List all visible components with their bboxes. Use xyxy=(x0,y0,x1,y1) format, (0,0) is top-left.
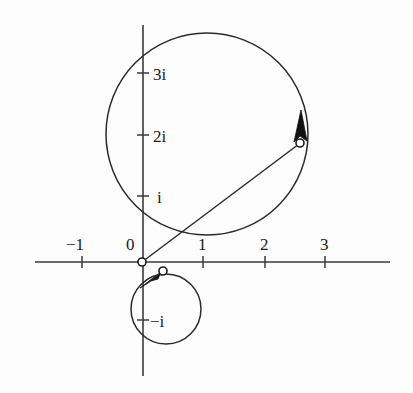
y-label-3i: 3i xyxy=(153,65,167,84)
small-circle xyxy=(131,274,201,344)
upper-arrow-head-icon xyxy=(294,110,307,142)
x-label-3: 3 xyxy=(320,235,329,254)
large-circle xyxy=(106,33,308,235)
x-label-0: 0 xyxy=(126,235,135,254)
y-label-minus-i: −i xyxy=(150,312,165,331)
y-label-i: i xyxy=(157,188,162,207)
x-label-minus1: −1 xyxy=(66,235,84,254)
origin-point-marker xyxy=(138,258,146,266)
figure-root: −1 0 1 2 3 3i 2i i −i xyxy=(0,0,413,393)
upper-point-marker xyxy=(296,139,304,147)
lower-point-marker xyxy=(159,267,167,275)
x-label-1: 1 xyxy=(198,235,207,254)
y-label-2i: 2i xyxy=(153,127,167,146)
x-label-2: 2 xyxy=(260,235,269,254)
complex-plane-diagram: −1 0 1 2 3 3i 2i i −i xyxy=(0,0,413,393)
chord-segment xyxy=(142,144,299,262)
